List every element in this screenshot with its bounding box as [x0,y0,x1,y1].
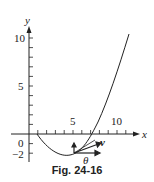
y-axis-label: y [24,14,30,26]
plot-canvas: y x 10 5 0 −2 5 10 v θ [0,0,154,182]
curve [37,34,129,155]
figure-caption: Fig. 24-16 [0,164,154,176]
x-tick-label-5: 5 [70,115,76,127]
vertical-arrowhead-icon [72,143,76,147]
y-tick-label-10: 10 [14,32,26,44]
y-tick-label-5: 5 [18,80,24,92]
y-tick-label-neg2: −2 [12,148,24,160]
x-ticks [38,130,126,134]
y-axis-arrow-icon [27,26,32,33]
x-axis-label: x [141,128,147,140]
y-ticks [29,38,33,153]
x-tick-label-10: 10 [111,115,123,127]
x-axis-arrow-icon [133,132,140,137]
velocity-label: v [100,136,105,148]
horizontal-arrowhead-icon [95,151,100,156]
